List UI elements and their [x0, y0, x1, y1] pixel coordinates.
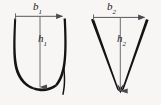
v-shape-left-edge	[91, 18, 120, 92]
geometry-figure: b1 h1 b2 h2	[0, 0, 161, 105]
u-shape-left-wall	[13, 19, 34, 90]
b2-dimension-arrow	[94, 14, 145, 20]
label-h1-base: h	[38, 32, 44, 44]
label-b2-subscript: 2	[113, 8, 117, 16]
u-shape-bottom-curve	[34, 84, 57, 91]
figure-canvas	[0, 0, 161, 105]
label-b1: b1	[33, 1, 42, 15]
label-h1: h1	[38, 33, 47, 47]
label-h2-base: h	[117, 32, 123, 44]
label-b2-base: b	[107, 0, 113, 12]
label-h2-subscript: 2	[123, 40, 127, 48]
label-b1-subscript: 1	[39, 8, 43, 16]
label-h1-subscript: 1	[44, 40, 48, 48]
label-b1-base: b	[33, 0, 39, 12]
label-b2: b2	[107, 1, 116, 15]
v-shape-right-edge	[120, 19, 148, 93]
label-h2: h2	[117, 33, 126, 47]
